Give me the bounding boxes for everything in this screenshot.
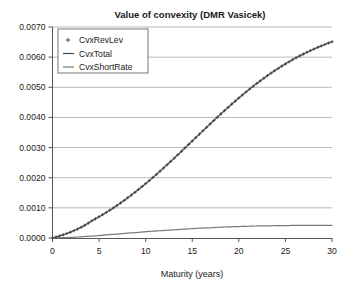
legend-item-label: CvxTotal (79, 49, 112, 59)
y-tick-label: 0.0050 (19, 82, 46, 92)
chart-title: Value of convexity (DMR Vasicek) (114, 9, 265, 20)
x-tick-label: 25 (281, 246, 291, 256)
x-tick-label: 20 (234, 246, 244, 256)
x-tick-label: 30 (327, 246, 337, 256)
legend-item-label: CvxShortRate (79, 62, 133, 72)
x-tick-label: 10 (141, 246, 151, 256)
x-axis-label: Maturity (years) (161, 269, 224, 279)
chart-legend[interactable]: CvxRevLevCvxTotalCvxShortRate (58, 29, 148, 73)
y-tick-label: 0.0020 (19, 173, 46, 183)
y-tick-label: 0.0040 (19, 112, 46, 122)
y-tick-label: 0.0030 (19, 143, 46, 153)
y-tick-label: 0.0010 (19, 203, 46, 213)
chart-figure: Value of convexity (DMR Vasicek) 0.00000… (0, 0, 348, 288)
x-tick-label: 5 (97, 246, 102, 256)
legend-item-label: CvxRevLev (79, 35, 124, 45)
x-tick-label: 15 (187, 246, 197, 256)
y-tick-label: 0.0060 (19, 52, 46, 62)
y-tick-label: 0.0070 (19, 22, 46, 32)
y-tick-label: 0.0000 (19, 233, 46, 243)
x-tick-label: 0 (50, 246, 55, 256)
convexity-line-chart: Value of convexity (DMR Vasicek) 0.00000… (0, 0, 348, 288)
